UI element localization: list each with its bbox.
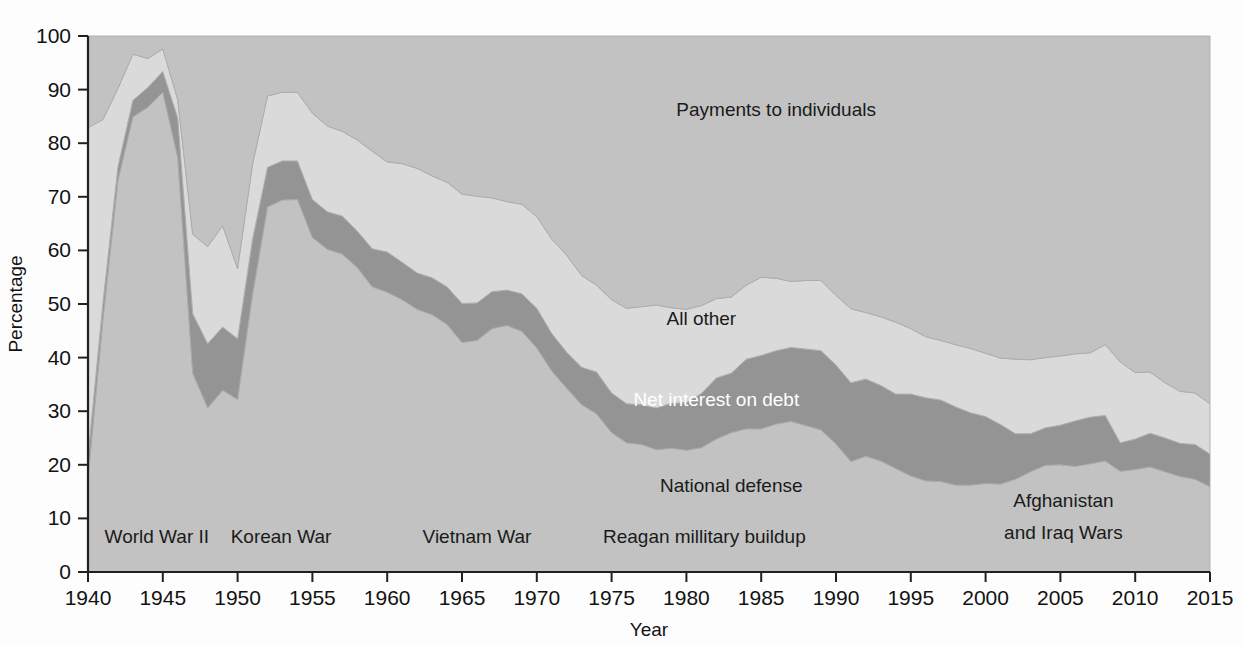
annotation-korean-war: Korean War bbox=[231, 526, 332, 547]
y-axis-label-70: 70 bbox=[48, 185, 71, 208]
y-axis-label-60: 60 bbox=[48, 238, 71, 261]
x-axis-label-1965: 1965 bbox=[439, 586, 486, 609]
x-axis-label-2005: 2005 bbox=[1037, 586, 1084, 609]
x-axis-label-1975: 1975 bbox=[588, 586, 635, 609]
y-axis-tick-labels: 0102030405060708090100 bbox=[36, 24, 71, 583]
x-axis-label-2010: 2010 bbox=[1112, 586, 1159, 609]
x-axis-label-1980: 1980 bbox=[663, 586, 710, 609]
series-label-national-defense: National defense bbox=[660, 475, 803, 496]
y-axis-label-100: 100 bbox=[36, 24, 71, 47]
annotation-world-war-ii: World War II bbox=[105, 526, 210, 547]
x-axis-label-1970: 1970 bbox=[513, 586, 560, 609]
y-axis-label-30: 30 bbox=[48, 399, 71, 422]
annotation-afghanistan-iraq-wars-line1: Afghanistan bbox=[1013, 490, 1113, 511]
y-axis-label-0: 0 bbox=[59, 560, 71, 583]
x-axis-tick-labels: 1940194519501955196019651970197519801985… bbox=[65, 586, 1234, 609]
x-axis-title: Year bbox=[630, 619, 669, 640]
y-axis-label-90: 90 bbox=[48, 78, 71, 101]
x-axis-label-2015: 2015 bbox=[1187, 586, 1234, 609]
x-axis-label-1995: 1995 bbox=[887, 586, 934, 609]
y-axis-label-10: 10 bbox=[48, 506, 71, 529]
x-axis-label-2000: 2000 bbox=[962, 586, 1009, 609]
y-axis-label-80: 80 bbox=[48, 131, 71, 154]
x-axis-label-1955: 1955 bbox=[289, 586, 336, 609]
x-axis-label-1945: 1945 bbox=[139, 586, 186, 609]
y-axis-title: Percentage bbox=[5, 255, 26, 352]
series-label-payments-to-individuals: Payments to individuals bbox=[676, 99, 876, 120]
series-label-net-interest-on-debt: Net interest on debt bbox=[633, 389, 800, 410]
x-axis-label-1950: 1950 bbox=[214, 586, 261, 609]
series-label-all-other: All other bbox=[667, 308, 737, 329]
annotation-afghanistan-iraq-wars-line2: and Iraq Wars bbox=[1004, 522, 1123, 543]
stacked-area-chart: 1940194519501955196019651970197519801985… bbox=[0, 0, 1243, 646]
annotation-vietnam-war: Vietnam War bbox=[423, 526, 532, 547]
y-axis-label-20: 20 bbox=[48, 453, 71, 476]
y-axis-label-50: 50 bbox=[48, 292, 71, 315]
x-axis-label-1985: 1985 bbox=[738, 586, 785, 609]
y-axis-label-40: 40 bbox=[48, 346, 71, 369]
x-axis-label-1940: 1940 bbox=[65, 586, 112, 609]
chart-container: 1940194519501955196019651970197519801985… bbox=[0, 0, 1243, 646]
x-axis-label-1960: 1960 bbox=[364, 586, 411, 609]
x-axis-label-1990: 1990 bbox=[813, 586, 860, 609]
annotation-reagan-military-buildup: Reagan millitary buildup bbox=[603, 526, 806, 547]
